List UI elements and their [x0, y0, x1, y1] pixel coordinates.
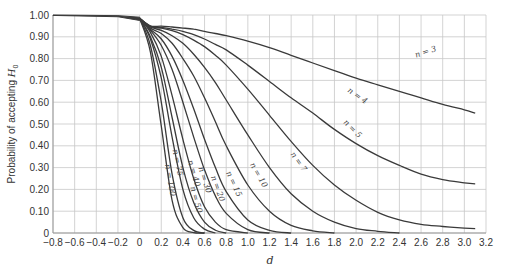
x-tick-label: 1.2 [263, 237, 277, 248]
x-tick-label: 0.4 [176, 237, 190, 248]
oc-curve-n15 [140, 18, 292, 233]
y-axis-label: Probability of accepting H0 [6, 65, 19, 184]
x-tick-label: −0.6 [65, 237, 85, 248]
curve-label: n = 7 [289, 150, 310, 174]
x-tick-label: 0 [137, 237, 143, 248]
y-axis-ticks: 00.100.200.300.400.500.600.700.800.901.0… [30, 10, 50, 239]
x-tick-label: 3.0 [457, 237, 471, 248]
x-axis-label: d [266, 254, 273, 267]
x-tick-label: −0.2 [108, 237, 128, 248]
y-tick-label: 0.40 [30, 140, 50, 151]
y-tick-label: 0.10 [30, 206, 50, 217]
x-axis-ticks: −0.8−0.6−0.4−0.200.20.40.60.81.01.21.41.… [43, 237, 493, 248]
x-tick-label: 0.2 [154, 237, 168, 248]
x-tick-label: −0.8 [43, 237, 63, 248]
y-tick-label: 1.00 [30, 10, 50, 21]
curve-label: n = 10 [248, 161, 269, 189]
y-tick-label: 0.30 [30, 162, 50, 173]
x-tick-label: 2.4 [392, 237, 406, 248]
oc-curve-chart: n = 3n = 4n = 5n = 7n = 10n = 15n = 20n … [0, 0, 508, 272]
y-tick-label: 0.90 [30, 31, 50, 42]
x-tick-label: 2.2 [371, 237, 385, 248]
x-tick-label: 1.6 [306, 237, 320, 248]
y-tick-label: 0.80 [30, 53, 50, 64]
curve-label: n = 3 [414, 44, 438, 59]
x-tick-label: −0.4 [86, 237, 106, 248]
y-tick-label: 0.70 [30, 75, 50, 86]
y-tick-label: 0 [43, 228, 49, 239]
x-tick-label: 0.6 [198, 237, 212, 248]
y-tick-label: 0.60 [30, 97, 50, 108]
x-tick-label: 0.8 [219, 237, 233, 248]
y-tick-label: 0.50 [30, 119, 50, 130]
x-tick-label: 1.0 [241, 237, 255, 248]
y-tick-label: 0.20 [30, 184, 50, 195]
x-tick-label: 2.8 [436, 237, 450, 248]
curve-label: n = 40 [186, 159, 202, 188]
x-tick-label: 2.0 [349, 237, 363, 248]
x-tick-label: 1.8 [327, 237, 341, 248]
x-tick-label: 1.4 [284, 237, 298, 248]
curve-label: n = 4 [346, 86, 369, 106]
x-tick-label: 3.2 [479, 237, 493, 248]
x-tick-label: 2.6 [414, 237, 428, 248]
